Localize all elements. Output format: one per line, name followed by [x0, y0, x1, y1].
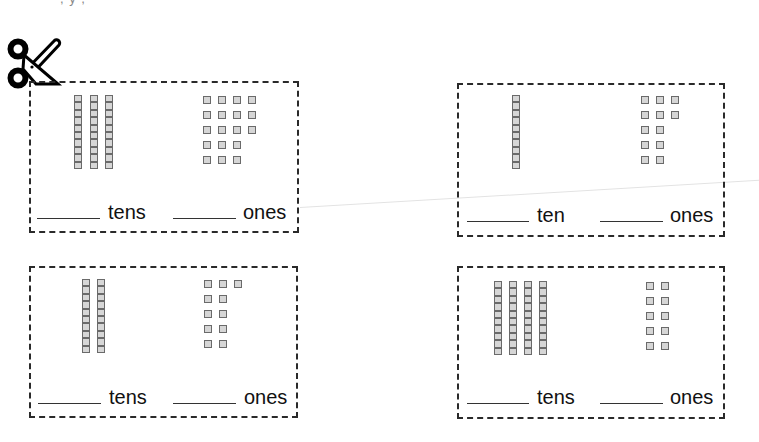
unit-cell	[512, 117, 520, 124]
unit-cell	[509, 340, 517, 347]
ones-block	[641, 156, 649, 164]
unit-cell	[509, 318, 517, 325]
ones-block	[641, 126, 649, 134]
ones-block	[204, 310, 212, 318]
unit-cell	[539, 311, 547, 318]
unit-cell	[524, 318, 532, 325]
unit-cell	[512, 154, 520, 161]
ones-block	[671, 111, 679, 119]
tens-rod	[512, 95, 520, 169]
ones-block	[219, 310, 227, 318]
tens-answer-blank[interactable]	[467, 221, 529, 222]
tens-rod	[82, 279, 90, 353]
ones-block	[219, 280, 227, 288]
unit-cell	[494, 281, 502, 288]
ones-block	[218, 126, 226, 134]
unit-cell	[90, 132, 98, 139]
unit-cell	[90, 125, 98, 132]
unit-cell	[524, 303, 532, 310]
ones-block	[204, 295, 212, 303]
unit-cell	[509, 296, 517, 303]
ones-block	[218, 141, 226, 149]
ones-block	[661, 282, 669, 290]
tens-rod	[74, 95, 82, 169]
unit-cell	[105, 154, 113, 161]
tens-rod	[539, 281, 547, 355]
unit-cell	[105, 110, 113, 117]
unit-cell	[105, 117, 113, 124]
tens-answer-blank[interactable]	[37, 218, 100, 219]
unit-cell	[90, 95, 98, 102]
unit-cell	[512, 139, 520, 146]
unit-cell	[509, 333, 517, 340]
tens-label: tens	[537, 387, 575, 407]
page-top-text-fragment: , y ,	[60, 0, 86, 6]
unit-cell	[90, 162, 98, 169]
ones-block	[656, 111, 664, 119]
ones-block	[203, 96, 211, 104]
ones-block	[646, 342, 654, 350]
unit-cell	[512, 110, 520, 117]
ones-answer-blank[interactable]	[173, 218, 236, 219]
unit-cell	[82, 316, 90, 323]
ones-block	[248, 96, 256, 104]
unit-cell	[494, 340, 502, 347]
unit-cell	[539, 303, 547, 310]
unit-cell	[494, 296, 502, 303]
ones-block	[204, 340, 212, 348]
ones-answer-blank[interactable]	[600, 403, 663, 404]
unit-cell	[74, 117, 82, 124]
ones-label: ones	[244, 387, 287, 407]
unit-cell	[74, 102, 82, 109]
unit-cell	[90, 154, 98, 161]
ones-block	[646, 312, 654, 320]
tens-rod	[524, 281, 532, 355]
ones-block	[218, 111, 226, 119]
ones-block	[203, 126, 211, 134]
ones-block	[234, 280, 242, 288]
unit-cell	[74, 110, 82, 117]
unit-cell	[90, 102, 98, 109]
unit-cell	[82, 294, 90, 301]
unit-cell	[494, 303, 502, 310]
unit-cell	[105, 132, 113, 139]
tens-answer-blank[interactable]	[38, 403, 101, 404]
unit-cell	[494, 318, 502, 325]
tens-label: tens	[108, 202, 146, 222]
unit-cell	[509, 325, 517, 332]
unit-cell	[509, 288, 517, 295]
ones-block	[641, 111, 649, 119]
tens-rod	[105, 95, 113, 169]
unit-cell	[74, 147, 82, 154]
unit-cell	[82, 338, 90, 345]
unit-cell	[90, 117, 98, 124]
unit-cell	[97, 316, 105, 323]
ones-label: ones	[243, 202, 286, 222]
unit-cell	[524, 296, 532, 303]
ones-block	[661, 297, 669, 305]
tens-rod	[494, 281, 502, 355]
unit-cell	[539, 288, 547, 295]
unit-cell	[105, 95, 113, 102]
unit-cell	[105, 139, 113, 146]
ones-block	[233, 96, 241, 104]
unit-cell	[82, 286, 90, 293]
unit-cell	[524, 333, 532, 340]
tens-rod	[90, 95, 98, 169]
tens-rod	[97, 279, 105, 353]
ones-answer-blank[interactable]	[173, 403, 236, 404]
unit-cell	[105, 125, 113, 132]
unit-cell	[494, 311, 502, 318]
unit-cell	[539, 333, 547, 340]
ones-block	[204, 325, 212, 333]
ones-blocks-group	[641, 96, 679, 164]
ones-label: ones	[670, 387, 713, 407]
ones-blocks-group	[204, 280, 242, 348]
ones-block	[204, 280, 212, 288]
ones-block	[218, 156, 226, 164]
ones-block	[646, 327, 654, 335]
ones-block	[233, 156, 241, 164]
ones-answer-blank[interactable]	[600, 221, 663, 222]
ones-block	[233, 111, 241, 119]
tens-answer-blank[interactable]	[467, 403, 529, 404]
